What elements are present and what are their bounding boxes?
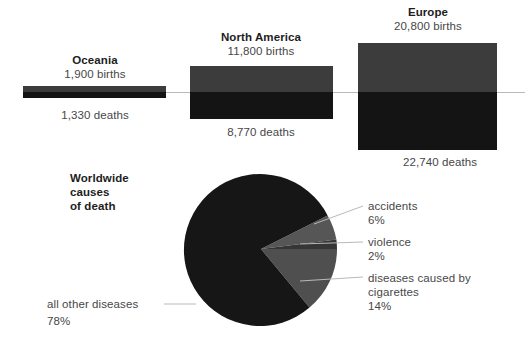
bar-north-america-deaths: [190, 92, 333, 119]
bar-europe-births: [358, 43, 497, 92]
bar-europe: [358, 43, 497, 150]
leader-line-cigarettes: [300, 277, 363, 281]
pie-title-line1: Worldwide: [70, 172, 129, 185]
bar-north-america: [190, 66, 333, 119]
leader-line-accidents: [314, 206, 363, 224]
bar-oceania: [23, 86, 166, 98]
births-label-north-america: 11,800 births: [228, 45, 295, 58]
bar-europe-deaths: [358, 92, 497, 150]
births-label-oceania: 1,900 births: [64, 68, 125, 81]
pie-value-accidents: 6%: [368, 214, 385, 227]
pie-value-violence: 2%: [368, 250, 385, 263]
pie-label-violence: violence: [368, 236, 411, 249]
pie-title-line3: of death: [70, 200, 116, 213]
pie-label-other-diseases: all other diseases: [47, 298, 138, 311]
pie-slice-other-diseases: [184, 174, 328, 326]
bar-north-america-births: [190, 66, 333, 92]
infographic-canvas: Oceania 1,900 births 1,330 deaths North …: [0, 0, 525, 346]
region-label-oceania: Oceania: [72, 54, 117, 67]
pie-slice-violence: [261, 240, 337, 250]
births-label-europe: 20,800 births: [394, 20, 462, 33]
pie-slice-cigarettes: [261, 249, 337, 308]
region-label-north-america: North America: [221, 31, 301, 44]
region-label-europe: Europe: [408, 6, 448, 19]
bar-oceania-deaths: [23, 92, 166, 98]
leader-line-violence: [300, 242, 363, 244]
deaths-label-north-america: 8,770 deaths: [227, 126, 295, 139]
pie-title-line2: causes: [70, 186, 110, 199]
pie-value-other-diseases: 78%: [47, 315, 70, 328]
pie-value-cigarettes: 14%: [368, 300, 391, 313]
pie-label-cigarettes-line1: diseases caused by: [368, 272, 471, 285]
pie-label-cigarettes-line2: cigarettes: [368, 286, 419, 299]
pie-label-accidents: accidents: [368, 200, 417, 213]
pie-slice-accidents: [261, 215, 336, 249]
deaths-label-europe: 22,740 deaths: [403, 156, 477, 169]
deaths-label-oceania: 1,330 deaths: [61, 109, 129, 122]
